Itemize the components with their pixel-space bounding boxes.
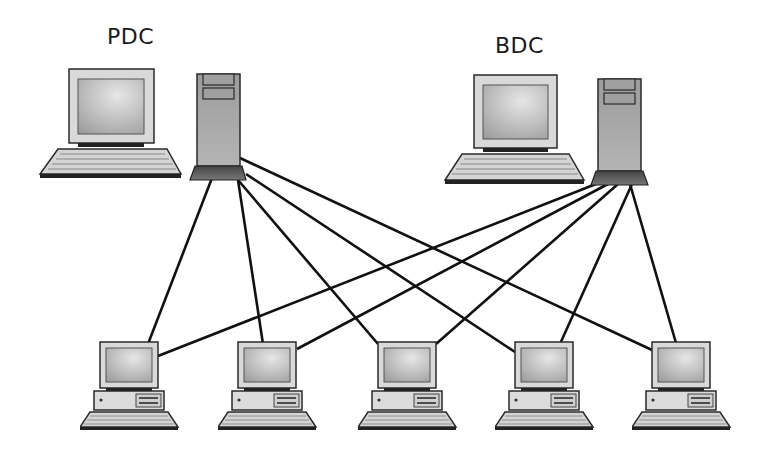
pdc-monitor xyxy=(69,69,154,147)
bdc-tower xyxy=(591,79,648,185)
connection-lines xyxy=(148,158,676,356)
workstation-4 xyxy=(495,342,593,430)
link-bdc-ws5 xyxy=(630,184,676,343)
link-bdc-ws4 xyxy=(560,184,632,344)
workstation-2 xyxy=(218,342,316,430)
workstations xyxy=(80,342,730,430)
bdc-computer xyxy=(445,75,648,185)
network-diagram xyxy=(0,0,761,454)
link-pdc-ws1 xyxy=(148,178,212,344)
pdc-computer xyxy=(40,69,246,180)
workstation-5 xyxy=(632,342,730,430)
pdc-keyboard xyxy=(40,149,181,178)
link-bdc-ws2 xyxy=(297,184,608,349)
bdc-keyboard xyxy=(445,154,584,184)
link-bdc-ws1 xyxy=(158,184,596,356)
pdc-tower xyxy=(190,74,246,180)
workstation-3 xyxy=(358,342,456,430)
bdc-monitor xyxy=(474,75,557,152)
link-pdc-ws4 xyxy=(246,174,515,352)
